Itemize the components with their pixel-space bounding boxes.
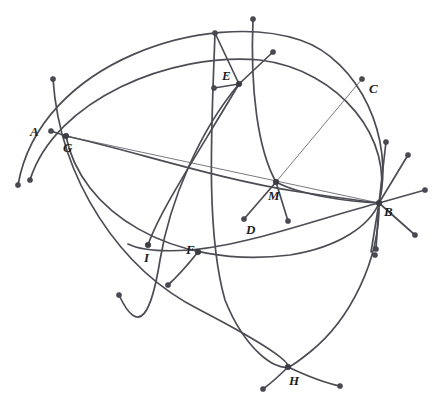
point-label-C: C [369, 81, 378, 96]
dot-E-left [211, 85, 216, 90]
point-label-B: B [383, 204, 393, 219]
dot-B-up [383, 139, 388, 144]
dot-I-tail [116, 292, 121, 297]
dot-B-down-left [372, 252, 377, 257]
dot-C [359, 76, 364, 81]
vertex-H [285, 364, 291, 370]
vertex-M [273, 179, 279, 185]
dot-M-right [285, 218, 290, 223]
point-label-I: I [143, 250, 150, 265]
dot-B-up-right [405, 152, 410, 157]
dot-E-up-left [212, 30, 217, 35]
vertex-B [376, 200, 382, 206]
dot-B-low-right [412, 232, 417, 237]
arc-I-through [148, 84, 239, 245]
dot-G-up [50, 76, 55, 81]
dot-B-down [373, 246, 378, 251]
dot-G-lower-left [15, 182, 20, 187]
dot-E-up-right [270, 49, 275, 54]
line-M-to-C [276, 79, 362, 182]
line-G-to-B [66, 136, 379, 203]
dot-F-tail [165, 282, 170, 287]
geometry-canvas: AGECMBDIFH [0, 0, 439, 411]
vertex-E [236, 81, 242, 87]
dot-A [48, 128, 53, 133]
point-label-H: H [288, 373, 300, 388]
dot-H-left [260, 386, 265, 391]
arcs-group [18, 19, 383, 389]
point-label-M: M [267, 188, 280, 203]
geometry-figure: AGECMBDIFH [0, 0, 439, 411]
arc-B-to-H [288, 203, 379, 367]
labels-group: AGECMBDIFH [29, 68, 393, 388]
vertex-G [63, 133, 69, 139]
dot-D [241, 216, 246, 221]
point-label-E: E [221, 68, 231, 83]
dot-G-lower-left-2 [27, 177, 32, 182]
point-label-D: D [245, 222, 256, 237]
dot-E-up [250, 16, 255, 21]
thin-lines-group [66, 79, 379, 203]
dot-H-right [337, 383, 342, 388]
vertex-F [195, 249, 201, 255]
vertex-I [145, 242, 151, 248]
point-label-A: A [29, 124, 39, 139]
point-label-F: F [185, 242, 195, 257]
dot-B-right [422, 187, 427, 192]
ray-E-to-up-right [239, 52, 273, 84]
point-label-G: G [63, 140, 73, 155]
arc-H-left-tail [263, 367, 288, 389]
vertices-group [63, 81, 382, 370]
